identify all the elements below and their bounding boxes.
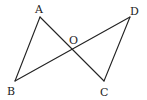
segment-bd [15, 17, 130, 81]
segment-ab [15, 17, 40, 81]
label-a: A [34, 3, 44, 16]
label-o: O [69, 34, 78, 47]
segment-dc [104, 17, 130, 81]
label-b: B [7, 85, 15, 98]
label-c: C [100, 86, 108, 99]
geometry-diagram: A B C D O [0, 0, 147, 100]
label-d: D [130, 5, 139, 18]
